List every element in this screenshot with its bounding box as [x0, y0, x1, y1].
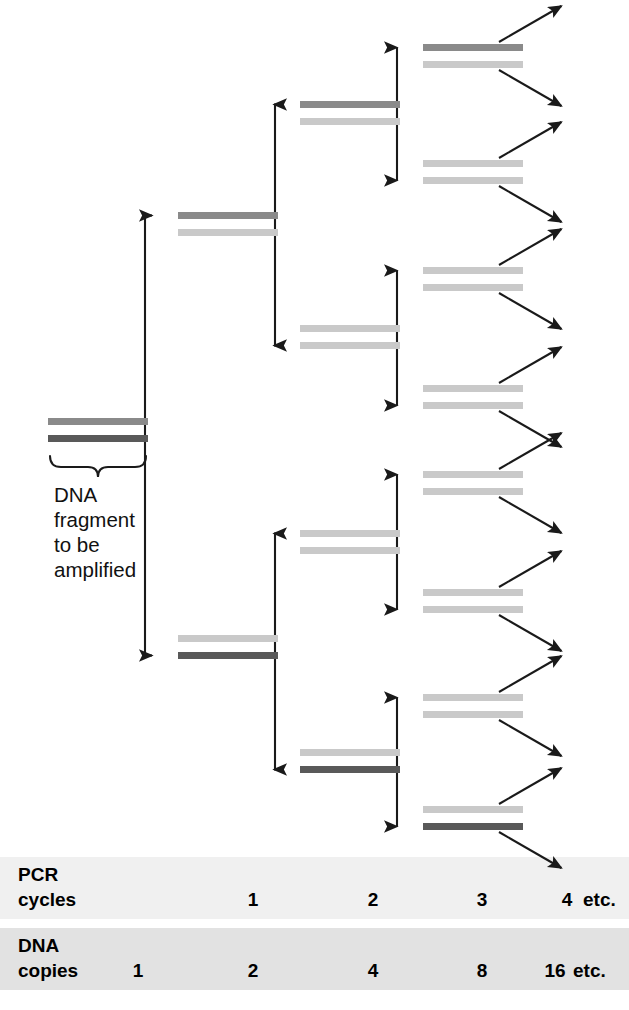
cycle4-arrow [499, 122, 561, 158]
pcr-diagram-canvas: DNAfragmentto beamplified PCRcycles1234e… [0, 0, 629, 1010]
cycle4-arrow [499, 720, 561, 756]
dna-strand-bottom [423, 606, 523, 613]
cycle4-arrow [499, 411, 561, 447]
dna-duplex [423, 385, 523, 409]
dna-strand-bottom [48, 435, 148, 442]
dna-strand-bottom [300, 342, 400, 349]
pcr-cycles-value: 4 [562, 889, 573, 910]
branch-connector-lines [145, 48, 397, 827]
dna-strand-top [48, 418, 148, 425]
dna-duplexes [48, 44, 523, 830]
dna-strand-bottom [423, 284, 523, 291]
dna-copies-etc: etc. [573, 960, 606, 981]
dna-strand-bottom [423, 177, 523, 184]
cycle4-arrow [499, 497, 561, 533]
dna-duplex [300, 325, 400, 349]
dna-strand-bottom [300, 547, 400, 554]
pcr-cycles-band [0, 857, 629, 919]
dna-strand-top [423, 160, 523, 167]
dna-duplex [423, 471, 523, 495]
branch-arrow [145, 216, 152, 431]
dna-duplex [423, 160, 523, 184]
dna-duplex [48, 418, 148, 442]
cycle4-arrow [499, 186, 561, 222]
dna-copies-band [0, 928, 629, 990]
cycle4-arrow [499, 656, 561, 692]
pcr-cycles-value: 2 [368, 889, 379, 910]
dna-strand-bottom [423, 823, 523, 830]
branch-arrow [274, 224, 275, 346]
dna-strand-top [178, 212, 278, 219]
cycle4-arrow [499, 293, 561, 329]
dna-strand-top [300, 101, 400, 108]
dna-strand-bottom [300, 118, 400, 125]
dna-strand-top [423, 471, 523, 478]
dna-strand-top [423, 589, 523, 596]
dna-duplex [423, 694, 523, 718]
dna-duplex [423, 44, 523, 68]
dna-strand-top [423, 385, 523, 392]
cycle4-arrow [499, 768, 561, 804]
cycle4-arrow [499, 615, 561, 651]
dna-strand-bottom [423, 711, 523, 718]
dna-copies-value: 1 [133, 960, 144, 981]
dna-strand-bottom [178, 652, 278, 659]
dna-copies-value: 8 [477, 960, 488, 981]
dna-fragment-label: DNAfragmentto beamplified [54, 483, 136, 581]
dna-strand-bottom [423, 488, 523, 495]
dna-duplex [178, 635, 278, 659]
pcr-cycles-value: 1 [248, 889, 259, 910]
branch-arrow [274, 534, 275, 648]
cycle4-arrow [499, 70, 561, 106]
dna-strand-top [300, 749, 400, 756]
dna-strand-bottom [300, 766, 400, 773]
fragment-brace: DNAfragmentto beamplified [50, 456, 146, 581]
dna-strand-top [178, 635, 278, 642]
cycle4-arrow [499, 551, 561, 587]
dna-copies-value: 2 [248, 960, 259, 981]
cycle4-arrow [499, 6, 561, 42]
branch-arrow [274, 647, 275, 770]
cycle4-exit-arrows [499, 6, 561, 868]
cycle4-arrow [499, 229, 561, 265]
legend-bands [0, 857, 629, 990]
dna-strand-top [423, 267, 523, 274]
dna-duplex [300, 749, 400, 773]
dna-copies-value: 4 [368, 960, 379, 981]
dna-strand-bottom [423, 402, 523, 409]
dna-strand-top [300, 530, 400, 537]
cycle4-arrow [499, 433, 561, 469]
dna-duplex [300, 101, 400, 125]
branch-arrow [145, 430, 152, 656]
dna-strand-top [423, 694, 523, 701]
dna-strand-bottom [423, 61, 523, 68]
pcr-cycles-etc: etc. [583, 889, 616, 910]
pcr-cycles-value: 3 [477, 889, 488, 910]
brace-icon [50, 456, 146, 477]
dna-strand-top [423, 44, 523, 51]
dna-strand-top [423, 806, 523, 813]
dna-copies-value: 16 [544, 960, 565, 981]
dna-duplex [423, 806, 523, 830]
dna-strand-bottom [178, 229, 278, 236]
cycle4-arrow [499, 347, 561, 383]
dna-duplex [423, 589, 523, 613]
pcr-diagram: DNAfragmentto beamplified PCRcycles1234e… [0, 0, 629, 1010]
dna-strand-top [300, 325, 400, 332]
dna-duplex [300, 530, 400, 554]
dna-duplex [423, 267, 523, 291]
dna-duplex [178, 212, 278, 236]
branch-arrow [274, 105, 275, 225]
